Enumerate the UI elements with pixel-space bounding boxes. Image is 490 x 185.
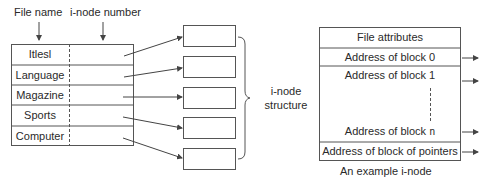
directory-entry-name: Language — [11, 65, 69, 85]
directory-entry-name: Computer — [11, 126, 69, 146]
blockn-cell: Address of block n — [319, 122, 461, 141]
block1-cell: Address of block 1 — [319, 66, 461, 84]
example-inode-caption: An example i-node — [340, 165, 432, 177]
directory-entry-name: Sports — [11, 105, 69, 125]
directory-entry-name: Itlesl — [11, 44, 69, 64]
blockn-suffix: n — [429, 126, 435, 137]
inode-number-header: i-node number — [70, 6, 141, 18]
file-attributes-cell: File attributes — [319, 27, 461, 48]
inode-structure-label-line1: i-node — [256, 84, 316, 98]
directory-entry-name: Magazine — [11, 85, 69, 105]
blockn-prefix: Address of block — [345, 125, 429, 137]
file-name-header: File name — [14, 6, 62, 18]
inode-structure-label-line2: structure — [256, 98, 316, 112]
pointers-cell: Address of block of pointers — [319, 142, 461, 160]
inode-structure-label: i-node structure — [256, 84, 316, 112]
block0-cell: Address of block 0 — [319, 48, 461, 66]
